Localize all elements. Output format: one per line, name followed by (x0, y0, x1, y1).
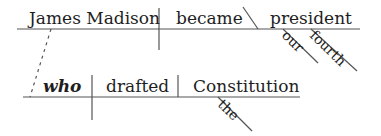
word-subject: James Madison (29, 8, 160, 28)
word-clause-object: Constitution (193, 76, 299, 96)
word-clause-subject: who (43, 76, 81, 96)
predicate-slant (243, 7, 258, 29)
word-verb: became (176, 8, 243, 28)
word-predicate-noun: president (270, 8, 352, 28)
word-clause-verb: drafted (106, 76, 169, 96)
